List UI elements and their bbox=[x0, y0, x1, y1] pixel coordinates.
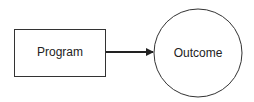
outcome-label: Outcome bbox=[154, 46, 242, 60]
program-label: Program bbox=[14, 45, 106, 59]
